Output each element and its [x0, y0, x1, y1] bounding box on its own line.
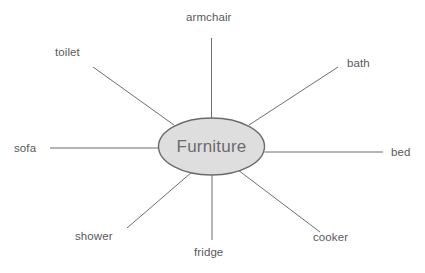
node-label-armchair: armchair	[186, 11, 232, 24]
node-label-bed: bed	[391, 146, 411, 159]
center-node-label: Furniture	[177, 137, 247, 156]
spoke-line-cooker	[238, 170, 320, 232]
diagram-canvas: Furniture	[0, 0, 425, 273]
spoke-line-bath	[249, 67, 338, 125]
spoke-line-toilet	[93, 67, 174, 125]
node-label-toilet: toilet	[55, 46, 80, 59]
node-label-shower: shower	[75, 230, 113, 243]
spoke-line-shower	[127, 172, 192, 228]
node-label-sofa: sofa	[14, 142, 36, 155]
node-label-fridge: fridge	[194, 246, 223, 259]
word-web-diagram: Furniture armchair toilet bath sofa bed …	[0, 0, 425, 273]
node-label-cooker: cooker	[313, 231, 348, 244]
node-label-bath: bath	[347, 57, 370, 70]
